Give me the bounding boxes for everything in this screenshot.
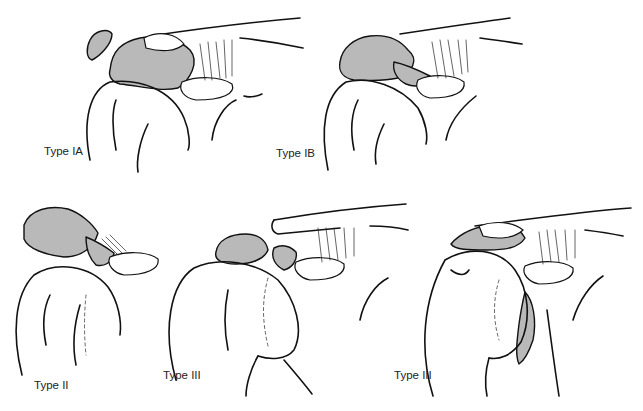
panel-type-iii-a: Type III [150,200,415,411]
shoulder-illustration-type-ib [270,0,643,190]
panel-label: Type III [163,369,201,381]
panel-label: Type II [34,379,69,391]
shoulder-illustration-type-ii [0,195,165,411]
panel-label: Type III [394,369,432,381]
shoulder-illustration-type-iii-b [395,200,643,411]
panel-type-ib: Type IB [270,0,643,190]
panel-label: Type IA [44,145,83,157]
panel-type-ii: Type II [0,195,165,411]
panel-label: Type IB [276,147,315,159]
panel-type-iii-b: Type III [395,200,643,411]
